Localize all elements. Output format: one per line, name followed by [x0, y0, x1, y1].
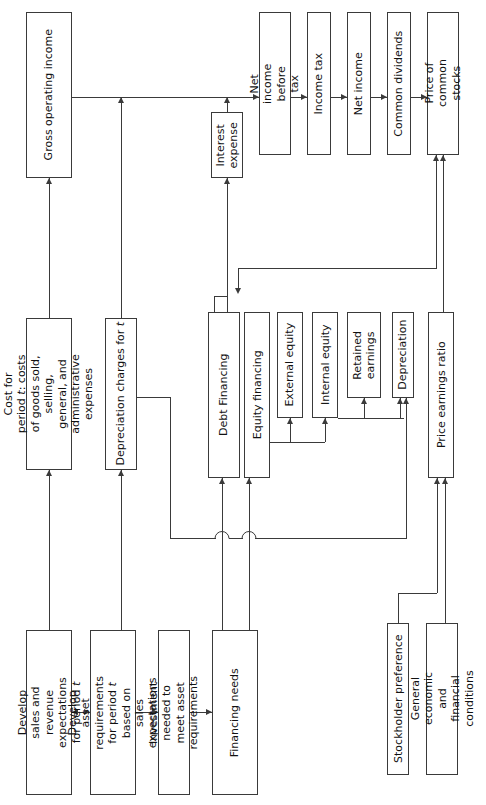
- edge-general-economic-to-pe: [445, 478, 446, 623]
- edge-price-feedback-horizontal: [238, 268, 437, 269]
- node-label: Common dividends: [392, 30, 405, 136]
- arrowhead-up: [361, 398, 367, 404]
- edge-depcharges-bottom-seg1: [170, 538, 216, 539]
- arrowhead-up: [219, 478, 225, 484]
- node-common-dividends[interactable]: Common dividends: [387, 12, 411, 155]
- edge-depcharges-to-depreciation-riser: [170, 397, 171, 538]
- arrowhead-up: [403, 398, 409, 404]
- node-debt-financing[interactable]: Debt Financing: [208, 312, 240, 478]
- node-label: Debt Financing: [217, 354, 230, 436]
- edge-financing-equity: [249, 478, 250, 630]
- node-depreciation[interactable]: Depreciation: [392, 312, 414, 398]
- node-external-equity[interactable]: External equity: [277, 312, 303, 418]
- edge-cost-gross: [49, 178, 50, 318]
- node-label: Net income: [352, 52, 365, 115]
- node-label: Internal equity: [318, 325, 331, 406]
- node-label: Gross operating income: [42, 29, 55, 160]
- edge-equity-split-horizontal: [270, 442, 325, 443]
- arrowhead-up: [118, 97, 124, 103]
- arrowhead-up: [224, 178, 230, 184]
- node-label: Depreciation: [396, 320, 409, 390]
- edge-internal-split-horizontal: [338, 418, 404, 419]
- node-label: Interest expense: [214, 122, 241, 168]
- edge-assets-depreciation-charges: [121, 470, 122, 630]
- node-net-income[interactable]: Net income: [347, 12, 371, 155]
- arrowhead-up: [246, 478, 252, 484]
- arrowhead-up: [118, 470, 124, 476]
- node-price-earnings-ratio[interactable]: Price earnings ratio: [428, 312, 454, 478]
- line-hop-over-debt-vertical: [214, 530, 230, 539]
- flowchart-canvas: Gross operating income Cost for period t…: [0, 0, 486, 805]
- node-label: Price of common stocks: [423, 60, 463, 108]
- arrowhead-up: [440, 155, 446, 161]
- arrowhead-up: [46, 178, 52, 184]
- edge-depcharges-to-depreciation-up: [406, 398, 407, 539]
- node-income-tax[interactable]: Income tax: [307, 12, 331, 155]
- edge-debt-to-interest-corner: [214, 296, 228, 297]
- node-label: Price earnings ratio: [434, 342, 447, 449]
- line-hop-over-equity-vertical: [241, 530, 257, 539]
- edge-depcharges-to-depreciation-top: [137, 397, 171, 398]
- node-label: Develop asset requirements for period t …: [66, 676, 160, 750]
- node-retained-earnings[interactable]: Retained earnings: [347, 312, 381, 398]
- node-interest-expense[interactable]: Interest expense: [211, 112, 243, 178]
- node-label: Income tax: [312, 53, 325, 115]
- node-internal-equity[interactable]: Internal equity: [312, 312, 338, 418]
- node-financing-needs[interactable]: Financing needs: [212, 630, 258, 795]
- edge-depreciation-charges-to-main: [121, 97, 122, 318]
- edge-price-feedback-riser: [436, 155, 437, 268]
- node-investment-needed[interactable]: Investment needed to meet asset requirem…: [158, 630, 190, 795]
- node-develop-asset-requirements[interactable]: Develop asset requirements for period t …: [90, 630, 136, 795]
- node-label: General economic and financial condition…: [408, 671, 475, 728]
- node-net-income-before-tax[interactable]: Net income before tax: [259, 12, 291, 155]
- arrowhead-up: [287, 418, 293, 424]
- arrowhead-up: [442, 478, 448, 484]
- node-label: Stockholder preference: [391, 635, 404, 763]
- node-equity-financing[interactable]: Equity financing: [244, 312, 270, 478]
- node-label: Net income before tax: [248, 63, 302, 103]
- edge-financing-debt: [222, 478, 223, 630]
- edge-debt-to-interest-stub: [227, 296, 228, 312]
- node-label: Financing needs: [228, 668, 241, 757]
- node-label: Cost for period t: costs of goods sold, …: [2, 354, 96, 433]
- arrowhead-up: [434, 478, 440, 484]
- arrowhead-up: [433, 155, 439, 161]
- arrowhead-down: [235, 288, 241, 294]
- node-label: External equity: [283, 323, 296, 407]
- arrowhead-up: [46, 470, 52, 476]
- edge-debt-to-interest: [227, 178, 228, 302]
- edge-pe-ratio-to-price: [443, 155, 444, 312]
- edge-gross-to-net-income-before-tax: [72, 97, 259, 98]
- edge-stockholder-horizontal: [398, 593, 437, 594]
- node-label: Retained earnings: [351, 331, 378, 380]
- edge-debt-to-interest-riser: [214, 296, 215, 312]
- node-depreciation-charges[interactable]: Depreciation charges for t: [105, 318, 137, 470]
- node-price-of-common-stocks[interactable]: Price of common stocks: [427, 12, 459, 155]
- node-gross-operating-income[interactable]: Gross operating income: [26, 12, 72, 178]
- edge-stockholder-riser: [398, 593, 399, 623]
- node-cost-for-period[interactable]: Cost for period t: costs of goods sold, …: [26, 318, 72, 470]
- node-label: Equity financing: [250, 351, 263, 440]
- node-general-economic[interactable]: General economic and financial condition…: [426, 623, 458, 775]
- node-label: Investment needed to meet asset requirem…: [147, 676, 201, 750]
- node-stockholder-preference[interactable]: Stockholder preference: [387, 623, 409, 775]
- arrowhead-up: [322, 418, 328, 424]
- edge-depcharges-bottom-seg3: [255, 538, 407, 539]
- edge-stockholder-to-pe: [437, 478, 438, 593]
- node-label: Depreciation charges for t: [114, 322, 127, 466]
- edge-sales-cost: [49, 470, 50, 630]
- arrowhead-up: [224, 97, 230, 103]
- edge-price-feedback-drop: [238, 268, 239, 288]
